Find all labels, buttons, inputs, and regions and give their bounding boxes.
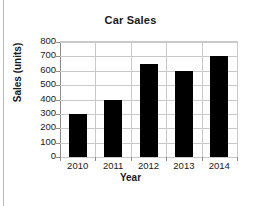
y-tick-label: 700 (26, 51, 56, 61)
bar-chart-figure: Car Sales Sales (units) 8007006005004003… (0, 0, 261, 206)
bar (210, 56, 228, 157)
x-tick-label: 2013 (173, 160, 194, 171)
bar (69, 114, 87, 157)
gridline-horizontal (60, 157, 237, 158)
gridline-vertical (202, 42, 203, 157)
y-axis-label: Sales (units) (12, 25, 23, 121)
x-axis-label: Year (0, 172, 261, 183)
y-tick-mark (56, 85, 60, 86)
y-tick-label: 200 (26, 123, 56, 133)
y-tick-label: 300 (26, 108, 56, 118)
gridline-horizontal (60, 42, 237, 43)
y-tick-label: 400 (26, 94, 56, 104)
gridline-vertical (131, 42, 132, 157)
x-tick-label: 2011 (103, 160, 123, 171)
y-axis-tick-labels: 8007006005004003002001000 (26, 36, 56, 156)
x-tick-mark (237, 157, 238, 161)
y-tick-mark (56, 71, 60, 72)
plot-area (60, 41, 238, 157)
bar (104, 100, 122, 158)
gridline-vertical (166, 42, 167, 157)
x-tick-label: 2012 (138, 160, 159, 171)
y-tick-mark (56, 128, 60, 129)
gridline-vertical (95, 42, 96, 157)
x-tick-label: 2010 (67, 160, 88, 171)
bar (140, 64, 158, 157)
y-tick-mark (56, 143, 60, 144)
chart-title: Car Sales (0, 14, 261, 26)
y-tick-mark (56, 42, 60, 43)
y-tick-label: 0 (26, 151, 56, 161)
y-tick-label: 600 (26, 65, 56, 75)
y-tick-mark (56, 100, 60, 101)
x-tick-label: 2014 (209, 160, 230, 171)
y-tick-label: 500 (26, 79, 56, 89)
y-tick-label: 100 (26, 137, 56, 147)
y-tick-mark (56, 56, 60, 57)
y-tick-label: 800 (26, 36, 56, 46)
y-tick-mark (56, 114, 60, 115)
bar (175, 71, 193, 157)
